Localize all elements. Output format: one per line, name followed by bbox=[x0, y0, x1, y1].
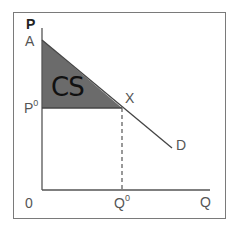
x-axis-label: Q bbox=[200, 195, 211, 209]
price-label-base: P bbox=[24, 100, 33, 116]
quantity-label-sup: 0 bbox=[125, 193, 130, 203]
price-label-sup: 0 bbox=[33, 98, 38, 108]
y-axis-label: P bbox=[26, 17, 35, 31]
region-label: CS bbox=[51, 74, 84, 100]
intercept-label: A bbox=[25, 34, 34, 48]
quantity-label: Q0 bbox=[114, 196, 130, 210]
equilibrium-label: X bbox=[125, 91, 134, 105]
price-label: P0 bbox=[24, 101, 38, 115]
curve-label: D bbox=[176, 138, 186, 152]
origin-label: 0 bbox=[25, 196, 33, 210]
quantity-label-base: Q bbox=[114, 195, 125, 211]
